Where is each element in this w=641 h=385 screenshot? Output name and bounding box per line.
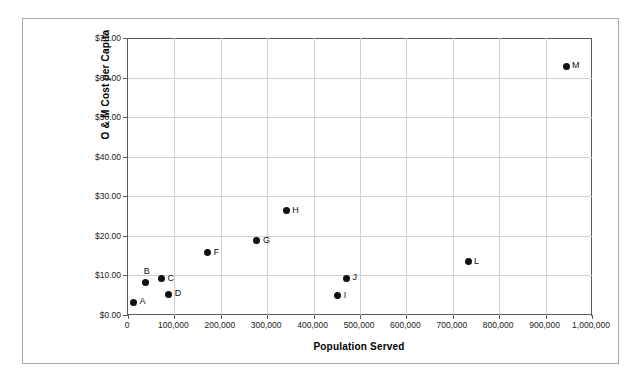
x-axis-tick-label: 100,000 [158,320,189,330]
x-axis-tick-label: 200,000 [204,320,235,330]
data-point-b [142,279,149,286]
y-axis-tick [123,236,128,237]
data-point-label-f: F [214,247,220,257]
data-point-a [130,299,137,306]
y-axis-tick [123,38,128,39]
x-axis-tick-label: 0 [125,320,130,330]
x-axis-tick-label: 800,000 [483,320,514,330]
x-axis-tick [546,315,547,319]
y-axis-tick-label: $10.00 [95,270,121,280]
data-point-c [158,275,165,282]
data-point-label-i: I [344,290,347,300]
gridline-vertical [174,38,175,315]
x-axis-title: Population Served [127,341,591,352]
y-axis-tick-label: $20.00 [95,231,121,241]
gridline-vertical [221,38,222,315]
x-axis-tick-label: 600,000 [390,320,421,330]
x-axis-tick [267,315,268,319]
data-point-d [165,291,172,298]
x-axis-tick [314,315,315,319]
data-point-label-b: B [144,266,150,276]
y-axis-tick-label: $70.00 [95,33,121,43]
x-axis-tick-label: 500,000 [344,320,375,330]
data-point-label-g: G [263,235,270,245]
data-point-g [253,237,260,244]
data-point-f [204,249,211,256]
gridline-vertical [546,38,547,315]
data-point-m [563,63,570,70]
y-axis-tick [123,117,128,118]
data-point-h [283,207,290,214]
x-axis-tick [360,315,361,319]
x-axis-tick [221,315,222,319]
data-point-l [465,258,472,265]
plot-area: ABCDFGHIJLM [127,38,591,315]
data-point-label-m: M [572,60,580,70]
y-axis-tick-label: $30.00 [95,191,121,201]
x-axis-tick [406,315,407,319]
y-axis-tick [123,157,128,158]
data-point-label-l: L [474,256,479,266]
x-axis-tick-label: 300,000 [251,320,282,330]
data-point-label-c: C [167,273,174,283]
x-axis-tick-label: 400,000 [297,320,328,330]
gridline-vertical [499,38,500,315]
x-axis-tick [128,315,129,319]
x-axis-tick-labels: 0100,000200,000300,000400,000500,000600,… [127,320,591,336]
y-axis-tick-label: $50.00 [95,112,121,122]
gridline-vertical [406,38,407,315]
data-point-label-h: H [292,205,299,215]
y-axis-tick-label: $60.00 [95,73,121,83]
gridline-vertical [360,38,361,315]
gridline-vertical [267,38,268,315]
x-axis-tick [499,315,500,319]
y-axis-tick-label: $0.00 [100,310,121,320]
y-axis-tick [123,196,128,197]
data-point-label-d: D [175,288,182,298]
x-axis-tick [592,315,593,319]
x-axis-tick [174,315,175,319]
y-axis-tick-label: $40.00 [95,152,121,162]
plot-right-border [591,38,592,316]
chart-frame: O & M Cost per Capita $0.00$10.00$20.00$… [22,18,619,364]
x-axis-tick-label: 900,000 [529,320,560,330]
data-point-label-j: J [353,272,358,282]
gridline-vertical [314,38,315,315]
x-axis-tick-label: 700,000 [436,320,467,330]
data-point-i [334,292,341,299]
y-axis-tick [123,78,128,79]
x-axis-tick-label: 1,000,000 [572,320,610,330]
y-axis-tick-labels: $0.00$10.00$20.00$30.00$40.00$50.00$60.0… [59,38,121,315]
data-point-j [343,275,350,282]
data-point-label-a: A [140,296,146,306]
y-axis-tick [123,275,128,276]
x-axis-tick [453,315,454,319]
gridline-vertical [453,38,454,315]
